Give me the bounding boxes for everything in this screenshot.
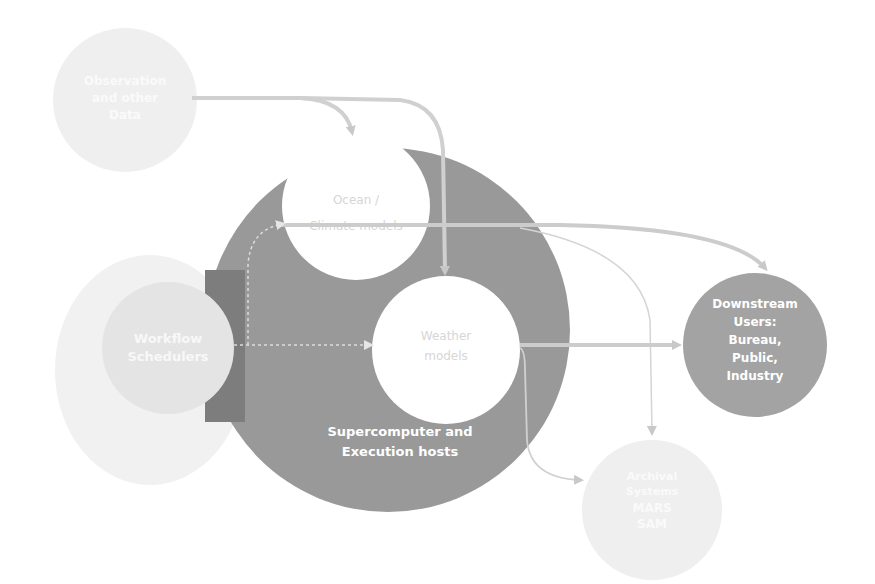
archival-systems-node[interactable]: Archival Systems MARS SAM (582, 440, 722, 580)
observation-label-line3: Data (109, 108, 141, 122)
archival-label-line4: SAM (637, 517, 667, 531)
downstream-users-node[interactable]: Downstream Users: Bureau, Public, Indust… (683, 273, 827, 417)
downstream-label-line3: Bureau, (729, 333, 782, 347)
observation-label-line1: Observation (84, 74, 167, 88)
ocean-climate-node[interactable]: Ocean / Climate models (282, 132, 430, 280)
workflow-schedulers-node[interactable]: Workflow Schedulers (102, 282, 234, 414)
archival-label-line1: Archival (627, 470, 677, 483)
diagram-canvas: Workflow Schedulers Observation and othe… (0, 0, 875, 584)
weather-models-node[interactable]: Weather models (372, 276, 520, 424)
workflow-label-line1: Workflow (134, 331, 202, 346)
downstream-label-line4: Public, (732, 351, 778, 365)
workflow-label-line2: Schedulers (127, 349, 208, 364)
observation-data-node[interactable]: Observation and other Data (53, 28, 197, 172)
weather-label-line1: Weather (421, 329, 472, 343)
archival-label-line3: MARS (632, 501, 671, 515)
observation-label-line2: and other (92, 91, 158, 105)
downstream-label-line5: Industry (727, 369, 784, 383)
downstream-label-line1: Downstream (712, 297, 797, 311)
downstream-label-line2: Users: (734, 315, 777, 329)
ocean-label-line1: Ocean / (333, 193, 380, 207)
arrow-observation-to-ocean (192, 98, 352, 132)
supercomputer-label-line2: Execution hosts (342, 444, 459, 459)
supercomputer-label-line1: Supercomputer and (327, 424, 472, 439)
archival-label-line2: Systems (626, 485, 679, 498)
weather-label-line2: models (424, 349, 468, 363)
